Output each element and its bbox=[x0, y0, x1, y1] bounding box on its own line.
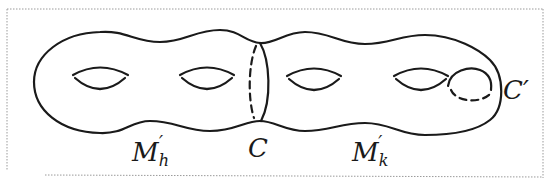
handle-3 bbox=[287, 69, 341, 91]
label-c: C bbox=[248, 133, 268, 163]
handle-4 bbox=[394, 69, 448, 91]
separating-curve-c bbox=[250, 43, 269, 121]
label-c-prime: C′ bbox=[503, 75, 529, 105]
handle-1 bbox=[73, 68, 128, 90]
handle-curve-c-prime bbox=[448, 69, 491, 101]
label-m-k: Mk′ bbox=[351, 132, 388, 170]
label-m-h: Mh′ bbox=[131, 132, 169, 170]
dotted-frame bbox=[7, 9, 543, 178]
handle-2 bbox=[180, 68, 234, 90]
surface-diagram: Mh′ C Mk′ C′ bbox=[0, 0, 559, 189]
